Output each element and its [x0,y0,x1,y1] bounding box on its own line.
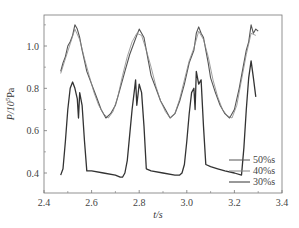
y-tick-label: 0.4 [27,168,40,179]
y-tick-label: 1.0 [27,41,40,52]
legend: 50%s 40%s 30%s [229,154,275,187]
x-tick-label: 2.8 [133,197,146,208]
x-tick-label: 3.4 [276,197,289,208]
x-tick-label: 2.4 [38,197,51,208]
svg-text:40%s: 40%s [253,165,275,176]
x-tick-label: 2.6 [85,197,98,208]
y-axis-title: P/105Pa [4,87,16,121]
x-tick-label: 3.0 [181,197,194,208]
x-axis-title: t/s [153,209,163,220]
series-group [61,25,259,177]
pressure-chart: 0.40.60.81.0 2.42.62.83.03.23.4 t/s P/10… [0,0,299,228]
legend-item-50: 50%s [229,154,275,165]
legend-item-30: 30%s [229,176,275,187]
svg-text:P/105Pa: P/105Pa [4,87,16,121]
legend-item-40: 40%s [229,165,275,176]
svg-text:50%s: 50%s [253,154,275,165]
series-line-50 [61,25,259,118]
x-tick-label: 3.2 [228,197,241,208]
svg-text:30%s: 30%s [253,176,275,187]
series-line-40 [61,29,256,118]
y-tick-label: 0.6 [27,125,40,136]
y-tick-label: 0.8 [27,83,40,94]
